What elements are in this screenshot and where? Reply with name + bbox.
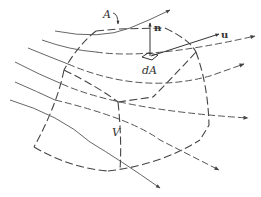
control-volume-figure: A dA n u V <box>0 0 261 197</box>
volume-label: V <box>112 126 121 139</box>
surface-pointer-arrow <box>113 13 118 24</box>
bottom-right-edge <box>108 140 200 171</box>
streamline-4-front <box>15 62 62 84</box>
right-top-ridge <box>153 52 196 97</box>
front-corner-link <box>118 97 153 102</box>
streamlines <box>10 10 255 188</box>
streamline-3-front <box>28 48 68 64</box>
streamline-2-front <box>42 40 96 52</box>
normal-vector-label: n <box>154 22 162 33</box>
streamline-6 <box>10 100 160 188</box>
control-volume-boundary <box>34 28 209 171</box>
area-element-label: dA <box>142 64 157 77</box>
front-top-ridge <box>64 70 118 102</box>
left-vertical-edge <box>34 70 64 147</box>
streamline-5-front <box>15 82 55 100</box>
bottom-left-edge <box>34 147 108 171</box>
right-vertical-edge <box>196 52 209 140</box>
streamline-1 <box>55 10 170 35</box>
streamline-2-back <box>96 36 255 54</box>
streamline-5-back <box>55 100 219 170</box>
velocity-vector-label: u <box>221 29 228 40</box>
surface-label: A <box>102 8 111 21</box>
streamline-4-back <box>62 84 248 118</box>
diagram-canvas: A dA n u V <box>0 0 261 197</box>
